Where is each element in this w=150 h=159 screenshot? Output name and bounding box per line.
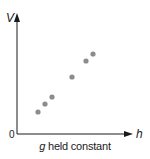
data-point bbox=[69, 74, 74, 79]
y-axis-arrow-icon bbox=[14, 13, 20, 22]
x-axis-label: h bbox=[136, 127, 143, 141]
y-axis-label: V bbox=[6, 11, 15, 25]
data-point bbox=[35, 109, 40, 114]
data-point bbox=[49, 94, 54, 99]
data-point bbox=[42, 101, 47, 106]
y-axis bbox=[14, 13, 20, 134]
caption-text: held constant bbox=[45, 140, 111, 152]
data-points bbox=[35, 51, 95, 114]
data-point bbox=[90, 51, 95, 56]
x-axis-arrow-icon bbox=[124, 131, 133, 137]
scatter-chart: V h 0 bbox=[0, 0, 150, 159]
data-point bbox=[83, 58, 88, 63]
origin-label: 0 bbox=[9, 129, 15, 140]
chart-caption: g held constant bbox=[0, 140, 150, 152]
x-axis bbox=[17, 131, 133, 137]
